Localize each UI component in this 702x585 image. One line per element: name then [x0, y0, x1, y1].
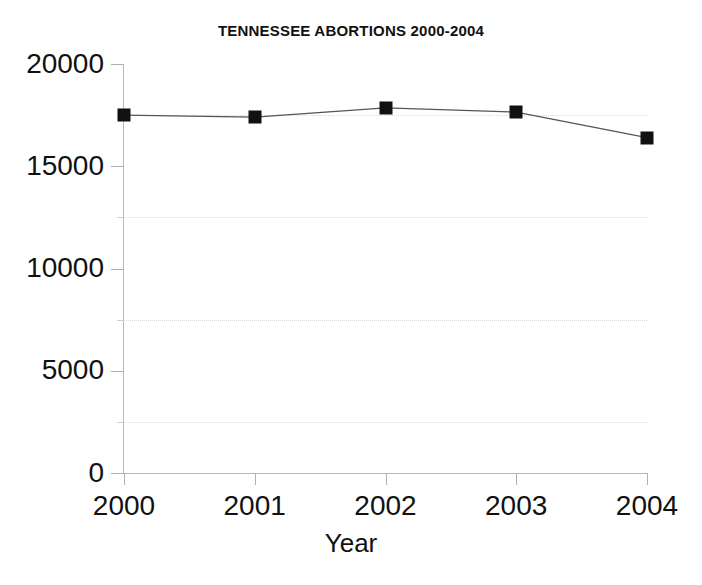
series-line [124, 64, 647, 473]
x-axis-label-2004: 2004 [616, 492, 678, 520]
y-axis-label-15000: 15000 [20, 152, 104, 180]
x-axis-title: Year [0, 528, 702, 559]
y-axis-label-5000: 5000 [20, 356, 104, 384]
y-tick-0 [111, 473, 124, 474]
y-tick-minor-12500 [117, 217, 124, 218]
data-point-2000 [118, 109, 131, 122]
y-tick-5000 [111, 371, 124, 372]
x-axis-label-2001: 2001 [224, 492, 286, 520]
data-point-2002 [379, 101, 392, 114]
chart-title: TENNESSEE ABORTIONS 2000-2004 [0, 22, 702, 39]
data-point-2004 [641, 131, 654, 144]
x-axis-label-2003: 2003 [485, 492, 547, 520]
y-tick-15000 [111, 166, 124, 167]
data-point-2001 [248, 111, 261, 124]
x-tick-2004 [647, 473, 648, 485]
y-tick-minor-7500 [117, 320, 124, 321]
plot-area: 2000 2001 2002 2003 2004 [124, 64, 647, 473]
y-axis-label-10000: 10000 [20, 254, 104, 282]
x-tick-2003 [516, 473, 517, 485]
y-tick-minor-2500 [117, 422, 124, 423]
x-tick-2000 [124, 473, 125, 485]
y-tick-10000 [111, 269, 124, 270]
data-point-2003 [510, 106, 523, 119]
x-axis-label-2002: 2002 [354, 492, 416, 520]
x-tick-2002 [386, 473, 387, 485]
y-axis-label-0: 0 [20, 459, 104, 487]
x-tick-2001 [255, 473, 256, 485]
chart-container: TENNESSEE ABORTIONS 2000-2004 20000 1500… [0, 0, 702, 585]
y-tick-20000 [111, 64, 124, 65]
x-axis-label-2000: 2000 [93, 492, 155, 520]
y-axis-label-20000: 20000 [20, 50, 104, 78]
